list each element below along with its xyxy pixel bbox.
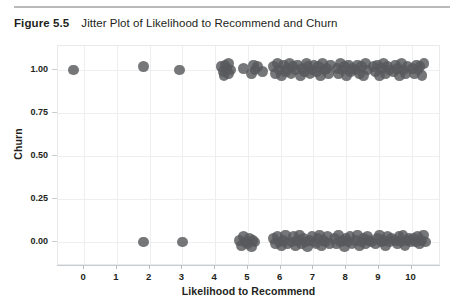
figure-caption: Figure 5.5Jitter Plot of Likelihood to R…: [14, 15, 454, 31]
y-tick-mark-0.25: [52, 198, 57, 199]
data-point: [138, 237, 149, 248]
figure-container: Figure 5.5Jitter Plot of Likelihood to R…: [0, 0, 464, 302]
x-axis-title: Likelihood to Recommend: [57, 285, 440, 297]
x-tick-mark-0: [83, 265, 84, 269]
data-point: [420, 237, 431, 248]
y-tick-label-0.00: 0.00: [8, 236, 48, 246]
x-tick-label-4: 4: [199, 271, 229, 282]
x-tick-mark-6: [280, 265, 281, 269]
data-point: [225, 65, 236, 76]
x-tick-mark-10: [411, 265, 412, 269]
figure-caption-text: Jitter Plot of Likelihood to Recommend a…: [81, 17, 337, 29]
y-axis-title: Churn: [12, 114, 24, 174]
data-point: [138, 61, 149, 72]
data-point: [419, 58, 430, 69]
x-tick-label-8: 8: [330, 271, 360, 282]
x-tick-label-3: 3: [166, 271, 196, 282]
x-tick-mark-8: [345, 265, 346, 269]
x-tick-mark-1: [116, 265, 117, 269]
x-tick-label-1: 1: [101, 271, 131, 282]
x-tick-label-5: 5: [232, 271, 262, 282]
data-point: [250, 237, 261, 248]
figure-label: Figure 5.5: [14, 17, 69, 29]
y-tick-mark-0.00: [52, 241, 57, 242]
x-tick-mark-4: [214, 265, 215, 269]
data-point: [177, 237, 188, 248]
data-point: [174, 65, 185, 76]
data-point: [417, 70, 428, 81]
y-tick-label-1.00: 1.00: [8, 64, 48, 74]
data-point: [68, 65, 79, 76]
x-tick-mark-2: [149, 265, 150, 269]
x-tick-mark-3: [181, 265, 182, 269]
y-tick-mark-1.00: [52, 69, 57, 70]
x-tick-label-0: 0: [68, 271, 98, 282]
x-tick-label-6: 6: [265, 271, 295, 282]
x-tick-mark-5: [247, 265, 248, 269]
y-tick-label-0.25: 0.25: [8, 193, 48, 203]
x-tick-label-10: 10: [396, 271, 426, 282]
x-tick-label-9: 9: [363, 271, 393, 282]
x-tick-mark-7: [312, 265, 313, 269]
x-tick-label-2: 2: [134, 271, 164, 282]
plot-panel: [57, 45, 440, 265]
data-points-layer: [58, 46, 441, 266]
x-tick-label-7: 7: [297, 271, 327, 282]
x-axis-line: [57, 265, 440, 266]
header-rule: [14, 6, 450, 8]
x-tick-mark-9: [378, 265, 379, 269]
y-tick-mark-0.50: [52, 155, 57, 156]
data-point: [257, 66, 268, 77]
y-tick-mark-0.75: [52, 112, 57, 113]
